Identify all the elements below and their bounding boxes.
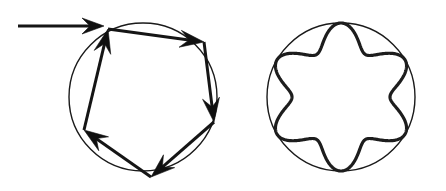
billiard-figure-svg (0, 0, 446, 191)
orbit-arrow-4-icon (84, 130, 109, 151)
right-panel (267, 23, 415, 171)
left-panel (18, 18, 219, 177)
caustic-envelope-curve (275, 23, 406, 171)
orbit-segment-3 (156, 122, 214, 173)
figure-root (0, 0, 446, 191)
right-boundary-circle (267, 23, 415, 171)
